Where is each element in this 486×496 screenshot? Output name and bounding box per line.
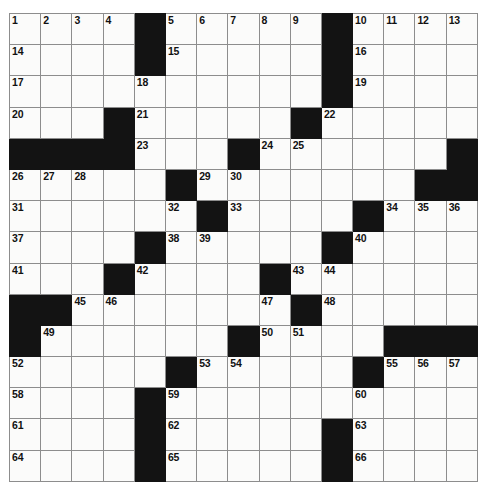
- crossword-cell[interactable]: [446, 76, 477, 107]
- crossword-cell[interactable]: [290, 419, 321, 450]
- crossword-cell[interactable]: 37: [10, 232, 41, 263]
- crossword-cell[interactable]: [134, 169, 165, 200]
- crossword-cell[interactable]: [228, 294, 259, 325]
- crossword-cell[interactable]: [41, 263, 72, 294]
- crossword-cell[interactable]: [446, 388, 477, 419]
- crossword-cell[interactable]: 9: [290, 14, 321, 45]
- crossword-cell[interactable]: [103, 45, 134, 76]
- crossword-cell[interactable]: 50: [259, 325, 290, 356]
- crossword-cell[interactable]: [415, 107, 446, 138]
- crossword-cell[interactable]: [72, 263, 103, 294]
- crossword-cell[interactable]: [321, 357, 352, 388]
- crossword-cell[interactable]: 29: [197, 169, 228, 200]
- crossword-cell[interactable]: 52: [10, 357, 41, 388]
- crossword-cell[interactable]: [353, 325, 384, 356]
- crossword-cell[interactable]: 48: [321, 294, 352, 325]
- crossword-cell[interactable]: 19: [353, 76, 384, 107]
- crossword-cell[interactable]: [41, 201, 72, 232]
- crossword-cell[interactable]: [384, 76, 415, 107]
- crossword-cell[interactable]: 43: [290, 263, 321, 294]
- crossword-cell[interactable]: [165, 76, 196, 107]
- crossword-cell[interactable]: 65: [165, 450, 196, 481]
- crossword-cell[interactable]: [259, 76, 290, 107]
- crossword-cell[interactable]: [103, 76, 134, 107]
- crossword-cell[interactable]: [41, 419, 72, 450]
- crossword-cell[interactable]: [290, 388, 321, 419]
- crossword-cell[interactable]: [72, 232, 103, 263]
- crossword-grid[interactable]: 1234567891011121314151617181920212223242…: [9, 13, 478, 482]
- crossword-cell[interactable]: [415, 419, 446, 450]
- crossword-cell[interactable]: [415, 76, 446, 107]
- crossword-cell[interactable]: 26: [10, 169, 41, 200]
- crossword-cell[interactable]: [384, 232, 415, 263]
- crossword-cell[interactable]: [72, 201, 103, 232]
- crossword-cell[interactable]: 66: [353, 450, 384, 481]
- crossword-cell[interactable]: [415, 45, 446, 76]
- crossword-cell[interactable]: [321, 388, 352, 419]
- crossword-cell[interactable]: 4: [103, 14, 134, 45]
- crossword-cell[interactable]: 3: [72, 14, 103, 45]
- crossword-cell[interactable]: [353, 169, 384, 200]
- crossword-cell[interactable]: [134, 294, 165, 325]
- crossword-cell[interactable]: [415, 263, 446, 294]
- crossword-cell[interactable]: [197, 388, 228, 419]
- crossword-cell[interactable]: 59: [165, 388, 196, 419]
- crossword-cell[interactable]: 62: [165, 419, 196, 450]
- crossword-cell[interactable]: [259, 201, 290, 232]
- crossword-cell[interactable]: 39: [197, 232, 228, 263]
- crossword-cell[interactable]: [103, 201, 134, 232]
- crossword-cell[interactable]: 35: [415, 201, 446, 232]
- crossword-cell[interactable]: 47: [259, 294, 290, 325]
- crossword-cell[interactable]: [72, 357, 103, 388]
- crossword-cell[interactable]: [41, 357, 72, 388]
- crossword-cell[interactable]: [72, 325, 103, 356]
- crossword-cell[interactable]: [415, 294, 446, 325]
- crossword-cell[interactable]: 2: [41, 14, 72, 45]
- crossword-cell[interactable]: [72, 419, 103, 450]
- crossword-cell[interactable]: 13: [446, 14, 477, 45]
- crossword-cell[interactable]: [103, 232, 134, 263]
- crossword-cell[interactable]: 7: [228, 14, 259, 45]
- crossword-cell[interactable]: 5: [165, 14, 196, 45]
- crossword-cell[interactable]: [353, 263, 384, 294]
- crossword-cell[interactable]: [41, 232, 72, 263]
- crossword-cell[interactable]: [41, 45, 72, 76]
- crossword-cell[interactable]: 33: [228, 201, 259, 232]
- crossword-cell[interactable]: [197, 419, 228, 450]
- crossword-cell[interactable]: [415, 138, 446, 169]
- crossword-cell[interactable]: [259, 45, 290, 76]
- crossword-cell[interactable]: 40: [353, 232, 384, 263]
- crossword-cell[interactable]: [290, 76, 321, 107]
- crossword-cell[interactable]: [384, 388, 415, 419]
- crossword-cell[interactable]: [134, 201, 165, 232]
- crossword-cell[interactable]: [353, 107, 384, 138]
- crossword-cell[interactable]: 56: [415, 357, 446, 388]
- crossword-cell[interactable]: [290, 357, 321, 388]
- crossword-cell[interactable]: [228, 76, 259, 107]
- crossword-cell[interactable]: 28: [72, 169, 103, 200]
- crossword-cell[interactable]: 45: [72, 294, 103, 325]
- crossword-cell[interactable]: [103, 450, 134, 481]
- crossword-cell[interactable]: [446, 45, 477, 76]
- crossword-cell[interactable]: [446, 232, 477, 263]
- crossword-cell[interactable]: [72, 76, 103, 107]
- crossword-cell[interactable]: [259, 232, 290, 263]
- crossword-cell[interactable]: 24: [259, 138, 290, 169]
- crossword-cell[interactable]: [259, 169, 290, 200]
- crossword-cell[interactable]: [165, 107, 196, 138]
- crossword-cell[interactable]: [446, 450, 477, 481]
- crossword-cell[interactable]: [290, 450, 321, 481]
- crossword-cell[interactable]: [103, 325, 134, 356]
- crossword-cell[interactable]: [228, 45, 259, 76]
- crossword-cell[interactable]: [41, 388, 72, 419]
- crossword-cell[interactable]: [197, 325, 228, 356]
- crossword-cell[interactable]: [384, 138, 415, 169]
- crossword-cell[interactable]: [446, 263, 477, 294]
- crossword-cell[interactable]: [134, 357, 165, 388]
- crossword-cell[interactable]: [415, 388, 446, 419]
- crossword-cell[interactable]: [103, 419, 134, 450]
- crossword-cell[interactable]: [197, 45, 228, 76]
- crossword-cell[interactable]: 60: [353, 388, 384, 419]
- crossword-cell[interactable]: [384, 169, 415, 200]
- crossword-cell[interactable]: 21: [134, 107, 165, 138]
